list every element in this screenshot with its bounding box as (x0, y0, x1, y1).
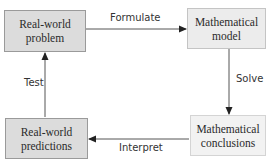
node-label-line: conclusions (196, 136, 259, 150)
node-label-line: problem (19, 31, 71, 45)
edge-label-solve: Solve (236, 73, 263, 84)
node-label-line: Real-world (19, 17, 71, 31)
node-mathematical-model: Mathematical model (187, 8, 266, 49)
node-label-line: model (195, 29, 258, 43)
edge-label-formulate: Formulate (110, 12, 161, 23)
edge-label-test: Test (24, 77, 44, 88)
node-real-world-problem: Real-world problem (4, 10, 86, 52)
node-label-line: Mathematical (196, 122, 259, 136)
edge-label-interpret: Interpret (119, 142, 163, 153)
node-label-line: Real-world (21, 125, 73, 139)
node-mathematical-conclusions: Mathematical conclusions (190, 115, 266, 156)
node-label-line: predictions (21, 139, 73, 153)
node-real-world-predictions: Real-world predictions (5, 118, 88, 159)
node-label-line: Mathematical (195, 15, 258, 29)
